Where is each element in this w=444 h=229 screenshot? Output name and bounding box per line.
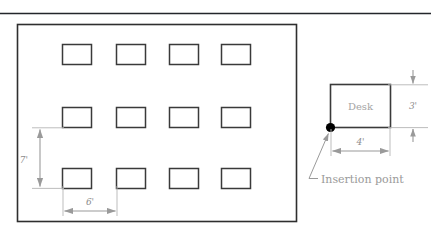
diagram-canvas: 7' 6' Desk 3' bbox=[0, 0, 444, 229]
desk-r2c4 bbox=[222, 108, 251, 128]
room-outline bbox=[18, 25, 297, 222]
dimension-7ft: 7' bbox=[20, 128, 64, 189]
desk-detail-label: Desk bbox=[348, 101, 374, 112]
desk-r3c4 bbox=[222, 169, 251, 189]
desk-r1c1 bbox=[63, 45, 92, 65]
insertion-point-label: Insertion point bbox=[321, 173, 404, 186]
figure-container: 7' 6' Desk 3' bbox=[0, 0, 444, 229]
desk-r3c1 bbox=[63, 169, 92, 189]
dim-label-4ft: 4' bbox=[355, 137, 364, 147]
dim-label-3ft: 3' bbox=[409, 101, 417, 111]
insertion-point-dot bbox=[326, 123, 335, 132]
dim-label-6ft: 6' bbox=[86, 197, 94, 207]
desk-r1c3 bbox=[170, 45, 199, 65]
dimension-4ft: 4' bbox=[331, 129, 390, 156]
desk-r2c1 bbox=[63, 108, 92, 128]
desk-r2c2 bbox=[117, 108, 146, 128]
desk-r3c2 bbox=[117, 169, 146, 189]
desk-detail-block: Desk bbox=[331, 85, 391, 128]
desk-r2c3 bbox=[170, 108, 199, 128]
desk-grid bbox=[63, 45, 251, 189]
desk-r3c3 bbox=[170, 169, 199, 189]
desk-r1c4 bbox=[222, 45, 251, 65]
dim-label-7ft: 7' bbox=[20, 155, 28, 165]
dimension-3ft: 3' bbox=[388, 70, 428, 142]
desk-r1c2 bbox=[117, 45, 146, 65]
dimension-6ft: 6' bbox=[63, 186, 117, 216]
